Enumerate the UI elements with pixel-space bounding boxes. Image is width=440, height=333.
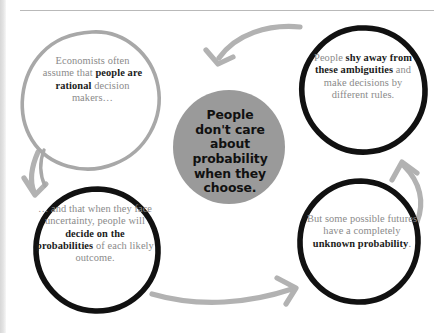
- node-economists-assume-label: Economists often assume that people are …: [40, 55, 145, 104]
- node-shy-away-ambiguities-label: People shy away from these ambiguities a…: [309, 52, 417, 101]
- arrow-bottom-left-to-bottom-right: [152, 278, 296, 304]
- diagram-canvas: Economists often assume that people are …: [0, 0, 440, 333]
- center-node-label: Peopledon't careaboutprobabilitywhen the…: [180, 108, 280, 196]
- node-decide-on-probabilities-label: … and that when they face uncertainty, p…: [36, 203, 154, 264]
- node-unknown-probability-label: But some possible futures have a complet…: [306, 213, 418, 250]
- arrow-top-right-to-center: [206, 26, 300, 64]
